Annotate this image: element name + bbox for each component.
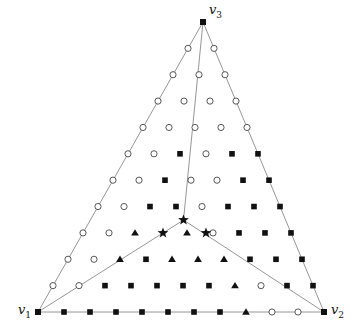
open-circle-marker [218, 124, 224, 130]
open-circle-marker [222, 72, 228, 78]
open-circle-marker [214, 177, 220, 183]
filled-triangle-marker [231, 282, 239, 288]
open-circle-marker [91, 256, 97, 262]
filled-triangle-marker [131, 229, 139, 235]
filled-triangle-marker [242, 308, 250, 314]
filled-square-marker [240, 177, 246, 183]
open-circle-marker [136, 177, 142, 183]
filled-star-marker [201, 227, 212, 237]
open-circle-marker [155, 98, 161, 104]
open-circle-marker [140, 124, 146, 130]
open-circle-marker [76, 283, 82, 289]
filled-square-marker [162, 177, 168, 183]
filled-square-marker [177, 151, 183, 157]
filled-square-marker [61, 309, 67, 315]
filled-square-marker [147, 204, 153, 210]
open-circle-marker [166, 124, 172, 130]
filled-square-marker [139, 309, 145, 315]
open-circle-marker [188, 177, 194, 183]
open-circle-marker [121, 203, 127, 209]
filled-star-marker [158, 227, 169, 237]
outer-triangle-edges [38, 22, 324, 312]
filled-triangle-marker [194, 256, 202, 262]
filled-square-marker [35, 309, 41, 315]
filled-square-marker [180, 283, 186, 289]
open-circle-marker [258, 283, 264, 289]
open-circle-marker [233, 98, 239, 104]
open-circle-marker [151, 151, 157, 157]
filled-square-marker [277, 204, 283, 210]
vertex-label-subscript: 3 [216, 10, 222, 20]
filled-triangle-marker [220, 256, 228, 262]
filled-square-marker [251, 204, 257, 210]
open-circle-marker [244, 124, 250, 130]
filled-square-marker [247, 256, 253, 262]
vertex-label-v1: v1 [18, 302, 31, 320]
edge-line [38, 22, 203, 312]
vertex-labels: v1v2v3 [18, 2, 344, 320]
filled-triangle-marker [183, 229, 191, 235]
filled-square-marker [143, 256, 149, 262]
open-circle-marker [199, 203, 205, 209]
filled-square-marker [128, 283, 134, 289]
filled-square-marker [225, 204, 231, 210]
filled-square-marker [102, 283, 108, 289]
filled-square-marker [165, 309, 171, 315]
open-circle-marker [196, 72, 202, 78]
filled-square-marker [266, 177, 272, 183]
filled-square-marker [206, 283, 212, 289]
vertex-label-subscript: 2 [338, 310, 344, 320]
filled-square-marker [321, 309, 327, 315]
filled-square-marker [229, 151, 235, 157]
filled-square-marker [262, 230, 268, 236]
open-circle-marker [192, 124, 198, 130]
figure-container: v1v2v3 [0, 0, 350, 332]
open-circle-marker [210, 230, 216, 236]
open-circle-marker [125, 151, 131, 157]
filled-star-marker [178, 214, 189, 224]
filled-square-marker [200, 19, 206, 25]
filled-square-marker [173, 204, 179, 210]
vertex-label-v3: v3 [209, 2, 222, 20]
vertex-label-v2: v2 [331, 302, 344, 320]
open-circle-marker [207, 98, 213, 104]
lattice-diagram-svg: v1v2v3 [0, 0, 350, 332]
filled-square-marker [255, 151, 261, 157]
filled-square-marker [217, 309, 223, 315]
filled-square-marker [273, 256, 279, 262]
internal-partition-edges [38, 22, 324, 312]
open-circle-marker [211, 45, 217, 51]
filled-square-marker [191, 309, 197, 315]
open-circle-marker [80, 230, 86, 236]
filled-square-marker [299, 256, 305, 262]
open-circle-marker [95, 203, 101, 209]
open-circle-marker [269, 309, 275, 315]
open-circle-marker [50, 283, 56, 289]
open-circle-marker [106, 230, 112, 236]
filled-square-marker [288, 230, 294, 236]
open-circle-marker [170, 72, 176, 78]
open-circle-marker [181, 98, 187, 104]
lattice-node-markers [35, 19, 327, 315]
filled-square-marker [236, 230, 242, 236]
filled-square-marker [113, 309, 119, 315]
edge-line [203, 22, 324, 312]
vertex-label-subscript: 1 [25, 310, 31, 320]
filled-square-marker [310, 283, 316, 289]
open-circle-marker [203, 151, 209, 157]
filled-square-marker [154, 283, 160, 289]
open-circle-marker [185, 45, 191, 51]
filled-square-marker [284, 283, 290, 289]
filled-square-marker [87, 309, 93, 315]
open-circle-marker [110, 177, 116, 183]
filled-triangle-marker [168, 256, 176, 262]
open-circle-marker [295, 309, 301, 315]
open-circle-marker [65, 256, 71, 262]
